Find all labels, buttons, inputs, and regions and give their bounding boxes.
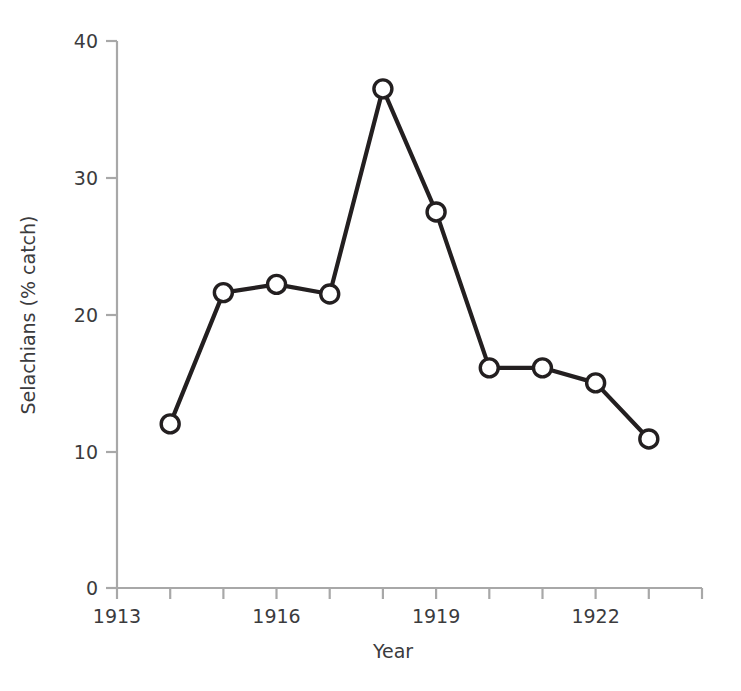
- data-point-marker: [214, 284, 232, 302]
- x-tick-label-1916: 1916: [252, 605, 300, 627]
- y-tick-label-0: 0: [58, 577, 98, 599]
- data-series-selachians: [161, 80, 658, 448]
- plot-canvas: [0, 0, 741, 691]
- data-point-marker: [268, 275, 286, 293]
- y-tick-label-10: 10: [58, 441, 98, 463]
- x-tick-label-1919: 1919: [412, 605, 460, 627]
- data-point-marker: [321, 285, 339, 303]
- x-axis-title: Year: [373, 640, 413, 662]
- y-axis-title: Selachians (% catch): [17, 215, 39, 414]
- line-chart-figure: 40 30 20 10 0 1913 1916 1919 1922 Year S…: [0, 0, 741, 691]
- x-axis-ticks: [117, 588, 702, 599]
- y-tick-label-40: 40: [58, 30, 98, 52]
- data-point-marker: [374, 80, 392, 98]
- data-point-marker: [427, 203, 445, 221]
- series-line: [170, 89, 649, 439]
- data-point-marker: [533, 359, 551, 377]
- y-axis-ticks: [106, 41, 117, 588]
- data-point-marker: [480, 359, 498, 377]
- y-tick-label-30: 30: [58, 167, 98, 189]
- y-tick-label-20: 20: [58, 304, 98, 326]
- x-tick-label-1922: 1922: [571, 605, 619, 627]
- x-tick-label-1913: 1913: [93, 605, 141, 627]
- data-point-marker: [161, 415, 179, 433]
- data-point-marker: [640, 430, 658, 448]
- data-point-marker: [587, 374, 605, 392]
